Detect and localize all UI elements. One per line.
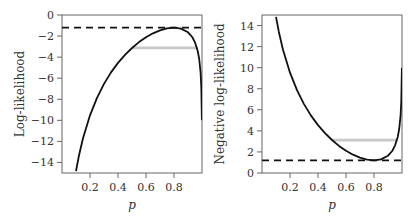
- plot-frame: [62, 15, 202, 173]
- y-tick-label: −6: [38, 72, 54, 85]
- y-tick-label: 0: [247, 167, 254, 180]
- x-tick-label: 0.2: [81, 181, 99, 194]
- y-tick-label: 8: [247, 83, 254, 96]
- plot-frame: [262, 15, 402, 173]
- log-likelihood-panel: 0.20.40.60.80−2−4−6−8−10−12−14 Log-likel…: [13, 9, 202, 212]
- y-tick-label: 2: [247, 146, 254, 159]
- x-tick-label: 0.2: [281, 181, 299, 194]
- x-axis-title: p: [128, 198, 136, 212]
- y-tick-label: 0: [47, 9, 54, 22]
- y-tick-label: −10: [31, 114, 54, 127]
- y-tick-label: 6: [247, 104, 254, 117]
- y-tick-label: −8: [38, 93, 54, 106]
- negative-log-likelihood-panel: 0.20.40.60.802468101214 Negative log-lik…: [213, 15, 402, 212]
- x-axis-title: p: [328, 198, 336, 212]
- y-tick-label: −4: [38, 51, 54, 64]
- x-tick-label: 0.6: [137, 181, 155, 194]
- y-axis-title: Negative log-likelihood: [213, 23, 227, 164]
- y-tick-label: 12: [240, 41, 254, 54]
- y-tick-label: 14: [240, 20, 254, 33]
- x-tick-label: 0.6: [337, 181, 355, 194]
- x-tick-label: 0.4: [109, 181, 127, 194]
- y-tick-label: −14: [31, 156, 54, 169]
- x-tick-label: 0.8: [165, 181, 183, 194]
- y-tick-label: 10: [240, 62, 254, 75]
- plot-area: 0.20.40.60.802468101214: [240, 15, 402, 194]
- y-tick-label: −2: [38, 30, 54, 43]
- y-tick-label: 4: [247, 125, 254, 138]
- x-tick-label: 0.4: [309, 181, 327, 194]
- chart-figure: 0.20.40.60.80−2−4−6−8−10−12−14 Log-likel…: [0, 0, 416, 220]
- y-axis-title: Log-likelihood: [13, 50, 27, 137]
- x-tick-label: 0.8: [365, 181, 383, 194]
- y-tick-label: −12: [31, 135, 54, 148]
- plot-area: 0.20.40.60.80−2−4−6−8−10−12−14: [31, 9, 202, 194]
